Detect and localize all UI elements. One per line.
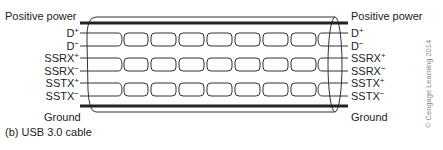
twisted-pair-ssrx (96, 58, 330, 71)
cable-right-end (328, 17, 342, 112)
cable-left-end (87, 17, 96, 112)
twisted-pair-sstx (96, 83, 330, 96)
cable-jacket-outline (96, 17, 335, 112)
twisted-pair-d (96, 33, 330, 46)
usb3-cable-diagram (0, 0, 443, 150)
